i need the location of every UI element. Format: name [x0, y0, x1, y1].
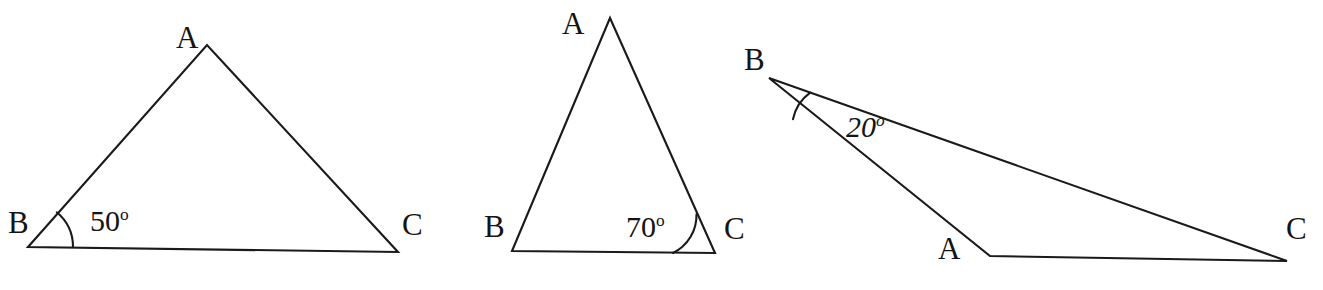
- triangle-3-vertex-label-A: A: [938, 233, 960, 264]
- triangle-2-angle-value-70: 70o: [626, 212, 665, 242]
- triangle-2-group: [512, 18, 715, 253]
- triangle-1-degree-symbol: o: [120, 204, 129, 224]
- triangle-2-vertex-label-C: C: [724, 213, 745, 244]
- triangle-2-vertex-label-A: A: [562, 8, 584, 39]
- triangle-1-vertex-label-B: B: [8, 207, 29, 238]
- triangle-1-angle-arc-B: [57, 212, 73, 247]
- triangle-3-angle-value-20: 20o: [846, 112, 885, 142]
- triangle-2-vertex-label-B: B: [484, 211, 505, 242]
- triangle-1-group: [28, 45, 398, 252]
- triangle-3-vertex-label-B: B: [744, 44, 765, 75]
- triangle-3-vertex-label-C: C: [1286, 213, 1307, 244]
- triangle-1-outline: [28, 45, 398, 252]
- triangle-1-vertex-label-C: C: [402, 209, 423, 240]
- triangle-1-angle-number: 50: [90, 204, 120, 237]
- triangle-1-vertex-label-A: A: [176, 22, 198, 53]
- triangle-3-group: [769, 78, 1287, 261]
- triangle-2-angle-number: 70: [626, 210, 656, 243]
- triangle-3-angle-arc-B: [793, 93, 810, 120]
- figure-canvas: A B C 50o A B C 70o A B C 20o: [0, 0, 1323, 290]
- triangle-3-degree-symbol: o: [876, 110, 885, 130]
- triangles-svg: [0, 0, 1323, 290]
- triangle-3-angle-number: 20: [846, 110, 876, 143]
- triangle-2-angle-arc-C: [673, 214, 697, 253]
- triangle-3-outline: [769, 78, 1287, 261]
- triangle-2-outline: [512, 18, 715, 253]
- triangle-1-angle-value-50: 50o: [90, 206, 129, 236]
- triangle-2-degree-symbol: o: [656, 210, 665, 230]
